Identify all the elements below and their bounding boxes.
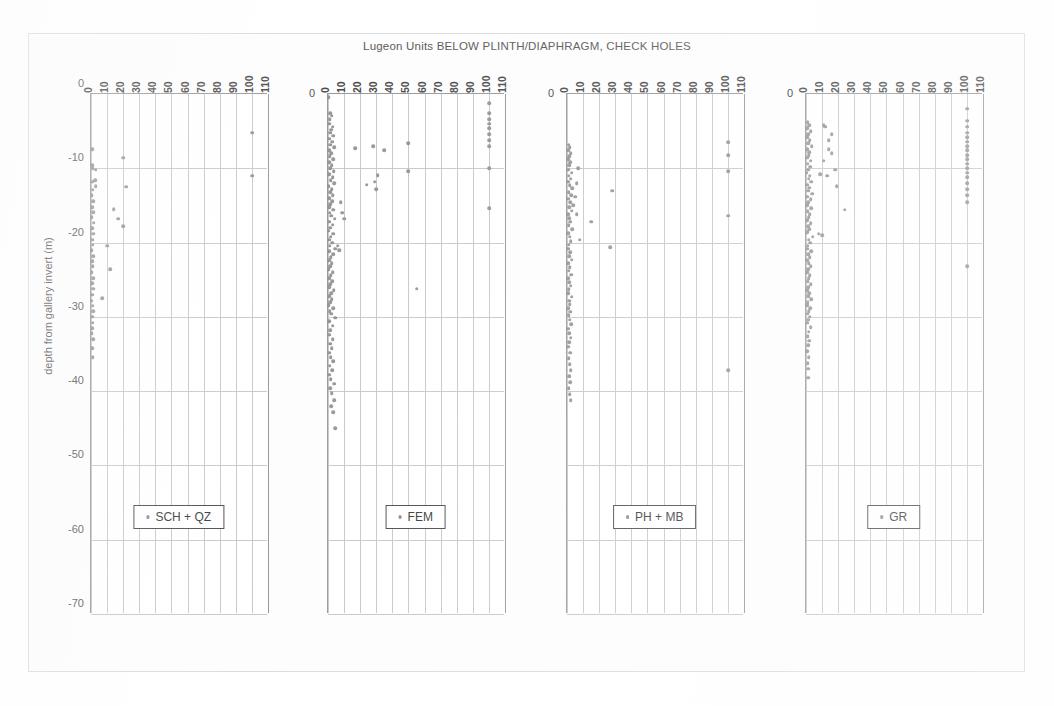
x-axis-tick: 20 xyxy=(114,81,126,93)
vertical-gridline xyxy=(712,94,713,613)
x-axis-tick: 70 xyxy=(432,81,444,93)
x-axis-tick: 50 xyxy=(877,81,889,93)
vertical-gridline xyxy=(583,94,584,613)
x-axis-tick: 10 xyxy=(335,81,347,93)
data-point xyxy=(575,181,579,185)
data-point xyxy=(383,149,387,153)
data-point xyxy=(374,187,378,191)
data-point xyxy=(571,187,575,191)
data-point xyxy=(567,345,571,349)
x-axis-tick: 40 xyxy=(383,81,395,93)
x-axis-tick: 80 xyxy=(687,81,699,93)
y-axis-tick-labels: 0-10-20-30-40-50-60-70 xyxy=(42,88,84,612)
vertical-gridline xyxy=(505,94,506,613)
data-point xyxy=(572,204,576,208)
data-point xyxy=(806,343,810,347)
vertical-gridline xyxy=(838,94,839,613)
data-point xyxy=(568,363,572,367)
data-point xyxy=(100,296,104,300)
data-point xyxy=(806,376,810,380)
vertical-gridline xyxy=(425,94,426,613)
data-point xyxy=(90,259,94,263)
x-axis-tick: 0 xyxy=(558,87,570,93)
legend-marker-icon xyxy=(626,515,630,519)
data-point xyxy=(250,131,254,135)
data-point xyxy=(805,230,809,234)
horizontal-gridline xyxy=(567,540,743,541)
data-point xyxy=(568,392,572,396)
data-point xyxy=(807,330,811,334)
data-point xyxy=(965,201,969,205)
data-point xyxy=(415,287,419,291)
vertical-gridline xyxy=(615,94,616,613)
vertical-gridline xyxy=(252,94,253,613)
data-point xyxy=(91,199,95,203)
vertical-gridline xyxy=(647,94,648,613)
x-axis-tick: 20 xyxy=(590,81,602,93)
data-point xyxy=(809,325,813,329)
data-point xyxy=(91,188,95,192)
y-axis-tick: -20 xyxy=(68,226,84,238)
data-point xyxy=(328,244,332,248)
data-point xyxy=(90,282,94,286)
data-point xyxy=(327,333,331,337)
vertical-gridline xyxy=(236,94,237,613)
vertical-gridline xyxy=(188,94,189,613)
data-point xyxy=(807,355,811,359)
x-axis-tick: 110 xyxy=(496,76,508,93)
data-point xyxy=(90,299,94,303)
data-point xyxy=(339,201,343,205)
vertical-gridline xyxy=(171,94,172,613)
horizontal-gridline xyxy=(806,540,982,541)
data-point xyxy=(109,268,113,272)
data-point xyxy=(965,149,969,153)
data-point xyxy=(327,229,331,233)
x-axis-tick: 90 xyxy=(227,81,239,93)
vertical-gridline xyxy=(220,94,221,613)
x-axis-tick: 20 xyxy=(351,81,363,93)
data-point xyxy=(810,144,814,148)
data-point xyxy=(330,369,334,373)
x-axis-tick: 20 xyxy=(829,81,841,93)
data-point xyxy=(487,166,491,170)
horizontal-gridline xyxy=(567,243,743,244)
horizontal-gridline xyxy=(806,243,982,244)
horizontal-gridline xyxy=(567,614,743,615)
data-point xyxy=(843,208,847,212)
data-point xyxy=(327,351,331,355)
data-point xyxy=(819,172,823,176)
vertical-gridline xyxy=(903,94,904,613)
data-point xyxy=(91,337,95,341)
data-point xyxy=(333,247,337,251)
data-point xyxy=(117,217,121,221)
data-point xyxy=(965,265,969,269)
data-point xyxy=(827,138,831,142)
data-point xyxy=(568,351,572,355)
data-point xyxy=(726,153,730,157)
data-point xyxy=(610,189,614,193)
data-point xyxy=(331,306,335,310)
data-point xyxy=(90,315,94,319)
data-point xyxy=(965,153,969,157)
data-point xyxy=(371,144,375,148)
data-point xyxy=(90,270,94,274)
horizontal-gridline xyxy=(567,391,743,392)
data-point xyxy=(329,355,333,359)
data-point xyxy=(825,174,829,178)
data-point xyxy=(125,185,129,189)
data-point xyxy=(827,147,831,151)
horizontal-gridline xyxy=(328,391,504,392)
data-point xyxy=(331,337,335,341)
horizontal-gridline xyxy=(328,614,504,615)
data-point xyxy=(90,331,94,335)
vertical-gridline xyxy=(457,94,458,613)
data-point xyxy=(569,398,573,402)
data-point xyxy=(334,426,338,430)
data-point xyxy=(331,193,335,197)
data-point xyxy=(726,140,730,144)
plot-area xyxy=(805,93,982,613)
data-point xyxy=(568,340,572,344)
vertical-gridline xyxy=(680,94,681,613)
data-point xyxy=(809,207,813,211)
data-point xyxy=(822,159,826,163)
